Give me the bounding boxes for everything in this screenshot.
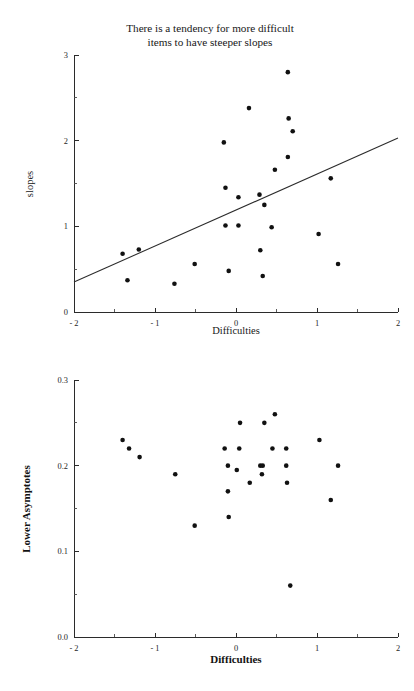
data-point bbox=[284, 463, 289, 468]
y-tick-label: 3 bbox=[64, 51, 68, 60]
data-point bbox=[222, 446, 227, 451]
data-point bbox=[235, 468, 240, 473]
y-tick-label: 0.3 bbox=[58, 376, 68, 385]
data-point bbox=[137, 455, 142, 460]
data-point bbox=[223, 223, 228, 228]
data-point bbox=[127, 446, 132, 451]
data-point bbox=[192, 523, 197, 528]
y-axis-label: slopes bbox=[24, 171, 35, 197]
x-tick-label: - 1 bbox=[150, 319, 159, 328]
data-point bbox=[258, 248, 263, 253]
data-point bbox=[223, 185, 228, 190]
data-point bbox=[328, 498, 333, 503]
y-tick-label: 0.0 bbox=[58, 633, 68, 642]
data-point bbox=[273, 167, 278, 172]
y-tick-label: 1 bbox=[64, 222, 68, 231]
data-point bbox=[260, 274, 265, 279]
data-point bbox=[125, 278, 130, 283]
data-point bbox=[226, 269, 231, 274]
data-point bbox=[247, 481, 252, 486]
x-axis-label: Difficulties bbox=[210, 653, 262, 665]
x-tick-label: 2 bbox=[396, 644, 400, 653]
data-point bbox=[316, 232, 321, 237]
data-point bbox=[336, 262, 341, 267]
data-point bbox=[238, 421, 243, 426]
data-point bbox=[290, 129, 295, 134]
data-point bbox=[257, 192, 262, 197]
data-point bbox=[262, 421, 267, 426]
data-point bbox=[286, 155, 291, 160]
x-tick-label: 1 bbox=[315, 319, 319, 328]
data-point bbox=[236, 223, 241, 228]
data-point bbox=[286, 116, 291, 121]
data-point bbox=[286, 70, 291, 75]
slopes-figure: There is a tendency for more difficult i… bbox=[0, 0, 414, 345]
asymptotes-plot: - 2- 10120.00.10.20.3DifficultiesLower A… bbox=[0, 345, 414, 691]
y-tick-label: 0.1 bbox=[58, 547, 68, 556]
data-point bbox=[260, 472, 265, 477]
data-point bbox=[173, 472, 178, 477]
data-point bbox=[120, 438, 125, 443]
data-point bbox=[285, 481, 290, 486]
y-tick-label: 2 bbox=[64, 137, 68, 146]
x-tick-label: - 2 bbox=[69, 319, 78, 328]
data-point bbox=[260, 463, 265, 468]
data-point bbox=[226, 463, 231, 468]
data-point bbox=[192, 262, 197, 267]
data-point bbox=[137, 247, 142, 252]
asymptotes-figure: There is no relationship between difficu… bbox=[0, 345, 414, 691]
slopes-plot: - 2- 10120123Difficultiesslopes bbox=[0, 0, 414, 345]
data-point bbox=[120, 251, 125, 256]
data-point bbox=[328, 176, 333, 181]
x-tick-label: - 2 bbox=[69, 644, 78, 653]
data-point bbox=[288, 583, 293, 588]
x-tick-label: - 1 bbox=[150, 644, 159, 653]
data-point bbox=[247, 106, 252, 111]
data-point bbox=[226, 515, 231, 520]
data-point bbox=[262, 203, 267, 208]
data-point bbox=[284, 446, 289, 451]
data-point bbox=[273, 412, 278, 417]
data-point bbox=[317, 438, 322, 443]
data-point bbox=[269, 225, 274, 230]
data-point bbox=[226, 489, 231, 494]
y-axis-label: Lower Asymptotes bbox=[20, 465, 32, 553]
regression-line bbox=[74, 138, 398, 282]
x-tick-label: 2 bbox=[396, 319, 400, 328]
x-tick-label: 0 bbox=[234, 644, 238, 653]
data-point bbox=[222, 140, 227, 145]
x-axis-label: Difficulties bbox=[212, 325, 260, 336]
data-point bbox=[336, 463, 341, 468]
data-point bbox=[270, 446, 275, 451]
data-point bbox=[172, 281, 177, 286]
y-tick-label: 0 bbox=[64, 308, 68, 317]
y-tick-label: 0.2 bbox=[58, 462, 68, 471]
x-tick-label: 1 bbox=[315, 644, 319, 653]
data-point bbox=[236, 195, 241, 200]
data-point bbox=[237, 446, 242, 451]
